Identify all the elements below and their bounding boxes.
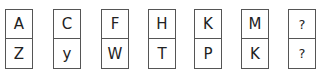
card-6-bottom-letter: K: [242, 39, 268, 68]
card-2-bottom-letter: y: [54, 39, 80, 68]
card-6-top-letter: M: [242, 10, 268, 39]
card-1-top-letter: A: [6, 10, 32, 39]
card-7-top-unknown: ?: [289, 10, 315, 39]
card-1-bottom-letter: Z: [6, 39, 32, 68]
card-6: M K: [241, 9, 269, 69]
letter-pair-puzzle: A Z C y F W H T K P M K ? ?: [0, 0, 321, 72]
card-3-top-letter: F: [102, 10, 128, 39]
card-7-bottom-unknown: ?: [289, 39, 315, 68]
card-4: H T: [148, 9, 176, 69]
card-1: A Z: [5, 9, 33, 69]
card-3: F W: [101, 9, 129, 69]
card-4-bottom-letter: T: [149, 39, 175, 68]
card-7-unknown: ? ?: [288, 9, 316, 69]
card-4-top-letter: H: [149, 10, 175, 39]
card-5-top-letter: K: [195, 10, 221, 39]
card-5: K P: [194, 9, 222, 69]
card-2-top-letter: C: [54, 10, 80, 39]
card-5-bottom-letter: P: [195, 39, 221, 68]
card-2: C y: [53, 9, 81, 69]
card-3-bottom-letter: W: [102, 39, 128, 68]
